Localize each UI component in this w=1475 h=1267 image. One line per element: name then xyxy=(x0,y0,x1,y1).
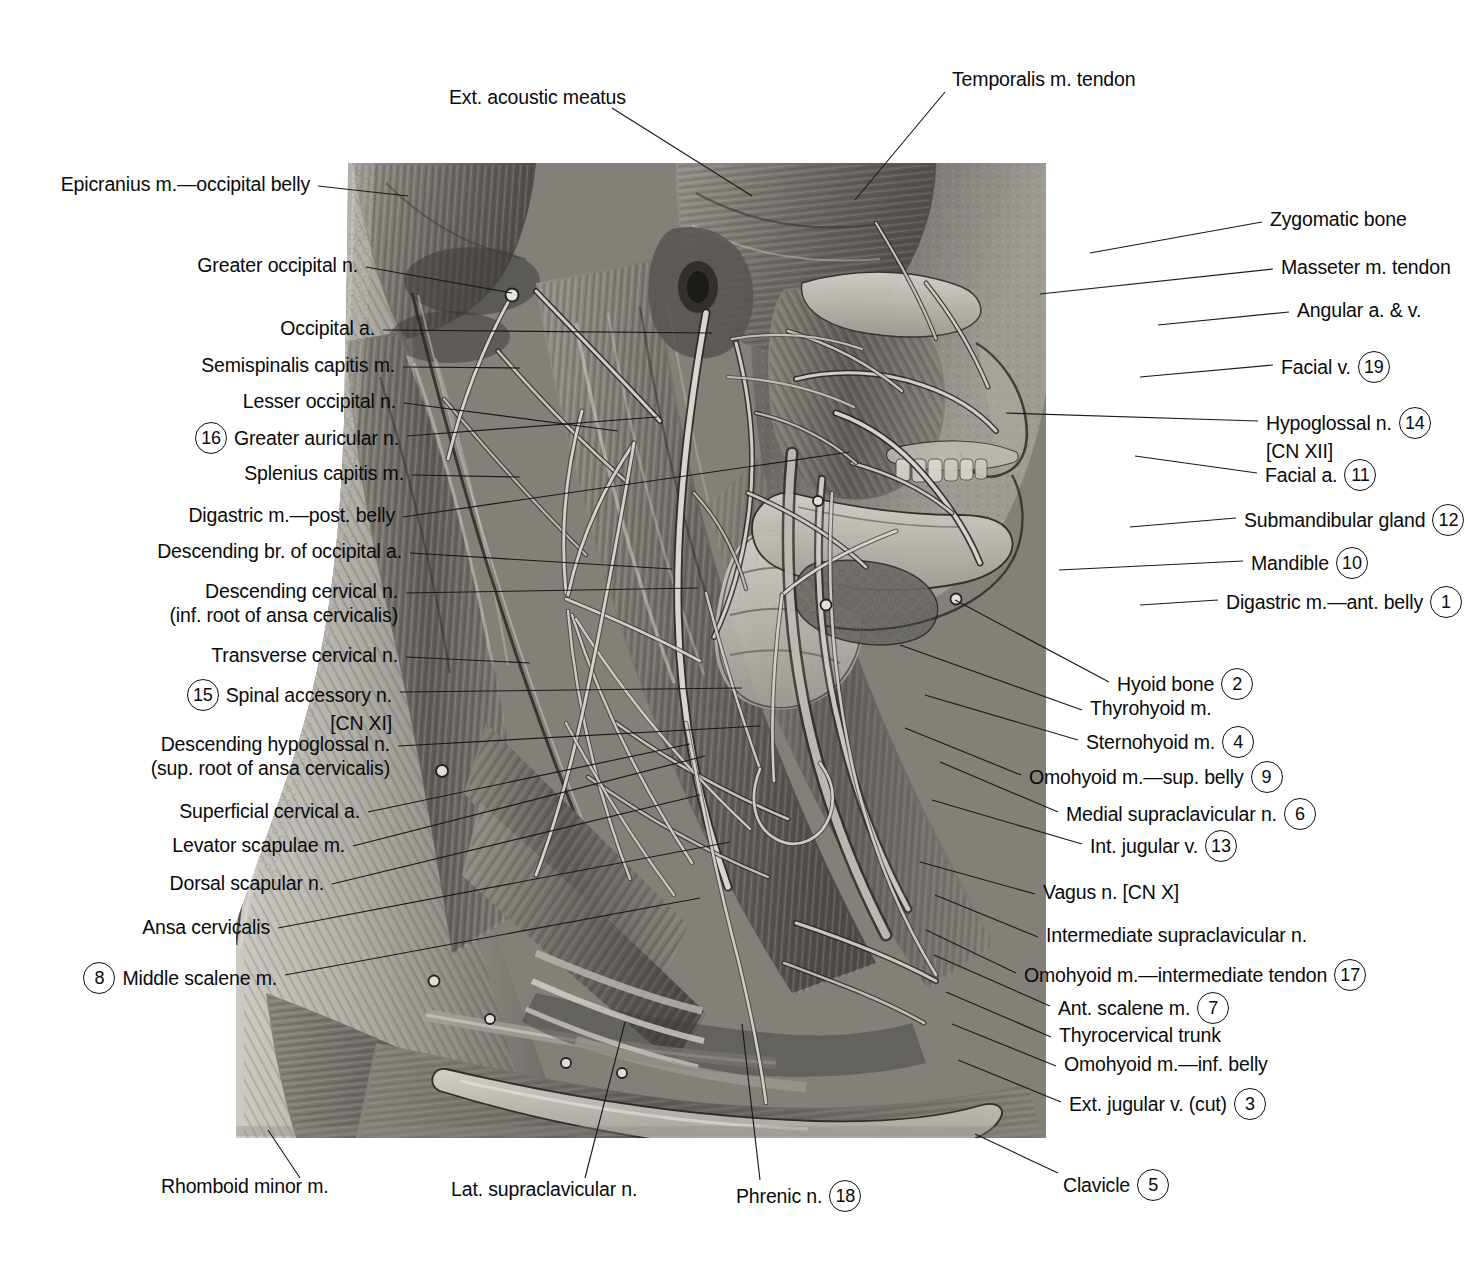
label-number-badge: 11 xyxy=(1344,459,1376,491)
label-row: Ant. scalene m.7 xyxy=(1058,992,1229,1024)
label-ansa-cervicalis: Ansa cervicalis xyxy=(0,915,270,939)
label-number-badge: 16 xyxy=(195,422,227,454)
label-number-badge: 12 xyxy=(1432,504,1464,536)
label-lat-supraclavicular-n: Lat. supraclavicular n. xyxy=(451,1177,637,1201)
label-row: Int. jugular v.13 xyxy=(1090,830,1237,862)
label-text: Omohyoid m.—sup. belly xyxy=(1029,765,1244,789)
label-row: Superficial cervical a. xyxy=(179,799,360,823)
label-row: Dorsal scapular n. xyxy=(170,871,324,895)
label-row: Digastric m.—ant. belly1 xyxy=(1226,586,1462,618)
label-number-badge: 9 xyxy=(1251,761,1283,793)
label-number-badge: 19 xyxy=(1358,351,1390,383)
label-thyrohyoid-m: Thyrohyoid m. xyxy=(1090,696,1212,720)
label-epicranius-m-occipital-belly: Epicranius m.—occipital belly xyxy=(0,172,310,196)
label-text: Descending cervical n. xyxy=(205,579,398,603)
label-levator-scapulae-m: Levator scapulae m. xyxy=(0,833,345,857)
label-text: Hypoglossal n. xyxy=(1266,411,1392,435)
leader-line-submandibular-gland xyxy=(1130,518,1236,527)
label-row: Medial supraclavicular n.6 xyxy=(1066,798,1316,830)
label-row: Hypoglossal n.14 xyxy=(1266,407,1431,439)
label-row: Intermediate supraclavicular n. xyxy=(1046,923,1307,947)
label-row: Vagus n. [CN X] xyxy=(1043,880,1179,904)
label-text: Submandibular gland xyxy=(1244,508,1425,532)
label-row: Phrenic n.18 xyxy=(736,1180,861,1212)
label-text: Facial v. xyxy=(1281,355,1351,379)
label-text: Masseter m. tendon xyxy=(1281,255,1451,279)
label-text: Levator scapulae m. xyxy=(172,833,345,857)
label-row: Ext. jugular v. (cut)3 xyxy=(1069,1088,1266,1120)
label-row: Levator scapulae m. xyxy=(172,833,345,857)
leader-line-angular-a-v xyxy=(1158,312,1289,325)
label-row: Rhomboid minor m. xyxy=(161,1174,329,1198)
label-number-badge: 8 xyxy=(83,962,115,994)
label-subtext: (inf. root of ansa cervicalis) xyxy=(169,603,398,627)
label-ext-acoustic-meatus: Ext. acoustic meatus xyxy=(449,85,626,109)
anatomy-plate: Ext. acoustic meatusTemporalis m. tendon… xyxy=(0,0,1475,1267)
label-text: Thyrocervical trunk xyxy=(1059,1023,1221,1047)
label-text: Mandible xyxy=(1251,551,1329,575)
leader-line-mandible xyxy=(1059,561,1243,570)
leader-line-facial-a xyxy=(1135,456,1257,473)
label-number-badge: 6 xyxy=(1284,798,1316,830)
label-thyrocervical-trunk: Thyrocervical trunk xyxy=(1059,1023,1221,1047)
label-row: Splenius capitis m. xyxy=(244,461,404,485)
label-masseter-m-tendon: Masseter m. tendon xyxy=(1281,255,1451,279)
label-clavicle: Clavicle5 xyxy=(1063,1169,1169,1201)
label-text: Int. jugular v. xyxy=(1090,834,1198,858)
label-row: Occipital a. xyxy=(280,316,375,340)
label-text: Temporalis m. tendon xyxy=(952,68,1135,90)
label-descending-hypoglossal-n: Descending hypoglossal n.(sup. root of a… xyxy=(0,732,390,780)
label-superficial-cervical-a: Superficial cervical a. xyxy=(0,799,360,823)
label-dorsal-scapular-n: Dorsal scapular n. xyxy=(0,871,324,895)
label-ext-jugular-v-cut: Ext. jugular v. (cut)3 xyxy=(1069,1088,1266,1120)
label-row: Thyrocervical trunk xyxy=(1059,1023,1221,1047)
label-temporalis-m-tendon: Temporalis m. tendon xyxy=(952,67,1135,91)
label-descending-cervical-n: Descending cervical n.(inf. root of ansa… xyxy=(0,579,398,627)
label-row: Omohyoid m.—inf. belly xyxy=(1064,1052,1268,1076)
label-row: Omohyoid m.—sup. belly9 xyxy=(1029,761,1283,793)
label-text: Descending hypoglossal n. xyxy=(161,732,390,756)
label-row: Transverse cervical n. xyxy=(211,643,398,667)
label-zygomatic-bone: Zygomatic bone xyxy=(1270,207,1407,231)
label-vagus-n-cn-x: Vagus n. [CN X] xyxy=(1043,880,1179,904)
label-row: Descending br. of occipital a. xyxy=(157,539,402,563)
label-text: Thyrohyoid m. xyxy=(1090,696,1212,720)
label-row: Descending hypoglossal n. xyxy=(161,732,390,756)
label-splenius-capitis-m: Splenius capitis m. xyxy=(0,461,404,485)
label-phrenic-n: Phrenic n.18 xyxy=(736,1180,861,1212)
label-text: Omohyoid m.—inf. belly xyxy=(1064,1052,1268,1076)
label-facial-v: Facial v.19 xyxy=(1281,351,1390,383)
label-int-jugular-v: Int. jugular v.13 xyxy=(1090,830,1237,862)
label-row: Lesser occipital n. xyxy=(243,389,396,413)
label-row: Zygomatic bone xyxy=(1270,207,1407,231)
label-text: Zygomatic bone xyxy=(1270,207,1407,231)
label-text: Lat. supraclavicular n. xyxy=(451,1177,637,1201)
label-text: Rhomboid minor m. xyxy=(161,1174,329,1198)
label-number-badge: 4 xyxy=(1222,726,1254,758)
label-number-badge: 3 xyxy=(1234,1088,1266,1120)
label-number-badge: 10 xyxy=(1336,547,1368,579)
label-text: Vagus n. [CN X] xyxy=(1043,880,1179,904)
leader-line-masseter-m-tendon xyxy=(1040,269,1273,294)
label-row: Angular a. & v. xyxy=(1297,298,1421,322)
label-row: Sternohyoid m.4 xyxy=(1086,726,1254,758)
label-angular-a-v: Angular a. & v. xyxy=(1297,298,1421,322)
label-text: Ext. jugular v. (cut) xyxy=(1069,1092,1227,1116)
label-row: 8Middle scalene m. xyxy=(83,962,277,994)
label-omohyoid-m-sup-belly: Omohyoid m.—sup. belly9 xyxy=(1029,761,1283,793)
label-row: Thyrohyoid m. xyxy=(1090,696,1212,720)
label-text: Omohyoid m.—intermediate tendon xyxy=(1024,963,1327,987)
label-row: Semispinalis capitis m. xyxy=(201,353,395,377)
label-digastric-m-ant-belly: Digastric m.—ant. belly1 xyxy=(1226,586,1462,618)
label-medial-supraclavicular-n: Medial supraclavicular n.6 xyxy=(1066,798,1316,830)
label-number-badge: 5 xyxy=(1137,1169,1169,1201)
label-number-badge: 15 xyxy=(187,679,219,711)
label-omohyoid-m-intermediate-tendon: Omohyoid m.—intermediate tendon17 xyxy=(1024,959,1366,991)
label-text: Hyoid bone xyxy=(1117,672,1214,696)
label-number-badge: 14 xyxy=(1399,407,1431,439)
label-number-badge: 7 xyxy=(1197,992,1229,1024)
label-row: 15Spinal accessory n. xyxy=(187,679,392,711)
leader-line-zygomatic-bone xyxy=(1090,222,1262,253)
label-text: Digastric m.—ant. belly xyxy=(1226,590,1423,614)
label-text: Facial a. xyxy=(1265,463,1337,487)
